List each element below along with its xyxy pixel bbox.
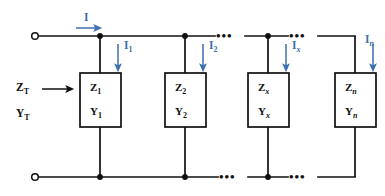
branch-2-impedance-subscript: 2	[182, 87, 186, 96]
branch-1-current-subscript: 1	[128, 45, 132, 54]
branch-2-impedance-label: Z2	[175, 82, 186, 93]
branch-2-current-subscript: 2	[213, 45, 217, 54]
branch-3-current-subscript: x	[296, 45, 300, 54]
branch-3-impedance-subscript: x	[265, 87, 269, 96]
branch-3-admittance-symbol: Y	[258, 105, 266, 117]
branch-2-top-junction-dot	[182, 33, 188, 39]
branch-3-current-label: Ix	[292, 40, 300, 52]
source-current-symbol: I	[84, 11, 88, 23]
top-rail-ellipsis-1: •••	[216, 29, 233, 42]
branch-1-current-label: I1	[124, 40, 132, 52]
bottom-rail-ellipsis-2: •••	[289, 170, 306, 183]
branch-1-impedance-label: Z1	[90, 82, 101, 93]
branch-3-impedance-label: Zx	[258, 82, 269, 93]
total-admittance-label: YT	[16, 108, 30, 120]
branch-2-admittance-label: Y2	[175, 106, 187, 117]
branch-2-admittance-symbol: Y	[175, 105, 183, 117]
branch-4-current-subscript: n	[369, 39, 373, 48]
branch-1-bottom-junction-dot	[97, 174, 103, 180]
circuit-schematic-canvas	[0, 0, 385, 196]
branch-1-top-junction-dot	[97, 33, 103, 39]
branch-3-admittance-subscript: x	[266, 111, 270, 120]
branch-3-bottom-junction-dot	[265, 174, 271, 180]
branch-2-admittance-subscript: 2	[183, 111, 187, 120]
branch-3-top-junction-dot	[265, 33, 271, 39]
branch-4-admittance-symbol: Y	[345, 105, 353, 117]
circuit-diagram: ••• ••• ••• ••• I ZT YT I1 I2 Ix In Z1 Y…	[0, 0, 385, 196]
branch-1-impedance-subscript: 1	[97, 87, 101, 96]
branch-4-impedance-label: Zn	[345, 82, 357, 93]
branch-4-admittance-subscript: n	[353, 111, 357, 120]
branch-4-current-label: In	[365, 34, 374, 46]
branch-2-current-label: I2	[209, 40, 217, 52]
branch-1-admittance-label: Y1	[90, 106, 102, 117]
bottom-left-open-terminal	[32, 174, 39, 181]
branch-2-bottom-junction-dot	[182, 174, 188, 180]
branch-1-admittance-symbol: Y	[90, 105, 98, 117]
branch-1-admittance-subscript: 1	[98, 111, 102, 120]
branch-4-admittance-label: Yn	[345, 106, 357, 117]
total-impedance-subscript: T	[24, 87, 29, 96]
total-impedance-symbol: Z	[16, 81, 24, 93]
top-left-open-terminal	[32, 33, 39, 40]
bottom-rail-ellipsis-1: •••	[219, 170, 236, 183]
branch-4-impedance-subscript: n	[352, 87, 356, 96]
total-admittance-subscript: T	[24, 113, 29, 122]
source-current-label: I	[84, 12, 88, 24]
total-impedance-label: ZT	[16, 82, 29, 94]
branch-3-admittance-label: Yx	[258, 106, 270, 117]
